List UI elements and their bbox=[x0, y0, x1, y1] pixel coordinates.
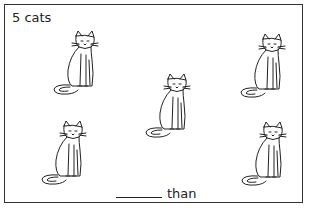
cat-illustration-2 bbox=[235, 33, 293, 99]
cat-illustration-5 bbox=[236, 121, 294, 187]
cat-illustration-4 bbox=[36, 120, 94, 186]
cat-icon bbox=[140, 73, 198, 139]
answer-prompt: than bbox=[167, 186, 197, 201]
cat-illustration-3 bbox=[140, 73, 198, 139]
cat-icon bbox=[48, 30, 106, 96]
worksheet-title: 5 cats bbox=[12, 10, 51, 25]
answer-line: than bbox=[116, 186, 197, 201]
answer-blank[interactable] bbox=[116, 196, 162, 198]
cat-icon bbox=[235, 33, 293, 99]
cat-illustration-1 bbox=[48, 30, 106, 96]
cat-icon bbox=[236, 121, 294, 187]
cat-icon bbox=[36, 120, 94, 186]
